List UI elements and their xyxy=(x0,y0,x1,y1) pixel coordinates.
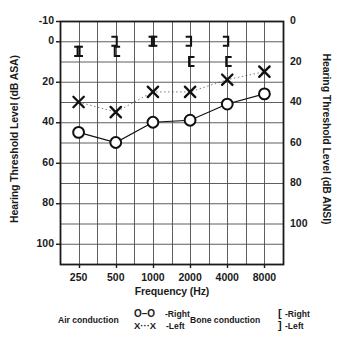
datapoint-bone-right-4000 xyxy=(226,57,230,66)
datapoint-air-right-500 xyxy=(110,137,121,148)
legend-air-left-symbol: X···X xyxy=(134,320,156,331)
audiogram-chart: Hearing Threshold Level (dB ASA) Hearing… xyxy=(0,0,339,341)
datapoint-air-left-250 xyxy=(73,97,83,107)
datapoint-air-right-8000 xyxy=(259,89,270,100)
legend-air-conduction-title: Air conduction xyxy=(58,315,119,325)
datapoint-bone-right-2000 xyxy=(189,57,193,66)
plot-area xyxy=(0,0,339,341)
legend-bone-left-label: -Left xyxy=(285,321,304,331)
legend-air-left-label: -Left xyxy=(166,321,185,331)
legend-air-right-label: -Right xyxy=(165,309,190,319)
legend-bone-left-symbol: ] xyxy=(278,319,282,331)
datapoint-air-right-250 xyxy=(73,127,84,138)
datapoint-air-right-2000 xyxy=(185,115,196,126)
series-line-air-right xyxy=(79,94,265,143)
datapoint-bone-left-2000 xyxy=(187,37,191,46)
datapoint-bone-left-4000 xyxy=(224,37,228,46)
legend-bone-right-symbol: [ xyxy=(278,307,282,319)
datapoint-air-right-4000 xyxy=(222,99,233,110)
datapoint-air-right-1000 xyxy=(148,117,159,128)
legend-air-right-symbol: O–O xyxy=(134,308,155,319)
datapoint-air-left-500 xyxy=(111,107,121,117)
datapoint-bone-left-500 xyxy=(112,37,116,46)
legend-bone-conduction-title: Bone conduction xyxy=(190,315,260,325)
legend-bone-right-label: -Right xyxy=(285,309,310,319)
series-line-air-left xyxy=(79,72,265,113)
